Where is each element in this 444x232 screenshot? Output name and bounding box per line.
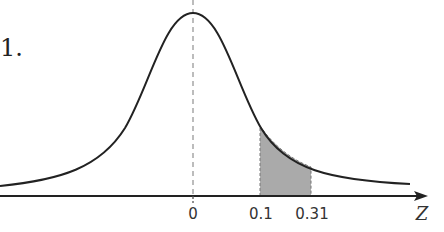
tick-0.1: 0.1 (249, 205, 273, 223)
z-axis-label: Z (415, 203, 429, 224)
normal-curve-diagram: 0 0.1 0.31 Z (0, 0, 444, 232)
tick-0: 0 (188, 205, 198, 223)
tick-0.31: 0.31 (295, 205, 328, 223)
bell-curve (0, 13, 410, 186)
